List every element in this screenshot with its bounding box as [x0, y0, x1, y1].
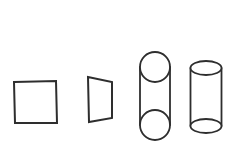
shape-square	[14, 81, 57, 123]
trapezoid-outline	[88, 77, 112, 122]
geometric-shapes-figure	[0, 0, 238, 154]
cylinder-bottom-ellipse	[191, 119, 222, 133]
capsule-top-circle	[140, 52, 170, 82]
square-outline	[14, 81, 57, 123]
capsule-bottom-circle	[140, 110, 170, 140]
figure-svg-canvas	[0, 0, 238, 154]
cylinder-top-ellipse	[191, 61, 222, 75]
shape-trapezoid	[88, 77, 112, 122]
